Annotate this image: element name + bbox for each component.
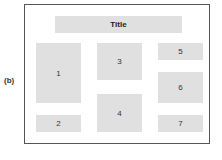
panel-label: 1 (56, 69, 60, 78)
panel-5: 5 (158, 43, 203, 60)
panel-label: 6 (178, 83, 182, 92)
panel-4: 4 (97, 94, 142, 132)
panel-label: 4 (117, 109, 121, 118)
panel-2: 2 (36, 115, 81, 132)
panel-label: 5 (178, 47, 182, 56)
panel-7: 7 (158, 115, 203, 132)
title-text: Title (110, 20, 126, 29)
panel-1: 1 (36, 43, 81, 103)
title-box: Title (55, 16, 182, 33)
panel-label: 3 (117, 57, 121, 66)
panel-6: 6 (158, 72, 203, 103)
figure-label: (b) (4, 76, 14, 85)
panel-3: 3 (97, 43, 142, 80)
panel-label: 7 (178, 119, 182, 128)
panel-label: 2 (56, 119, 60, 128)
